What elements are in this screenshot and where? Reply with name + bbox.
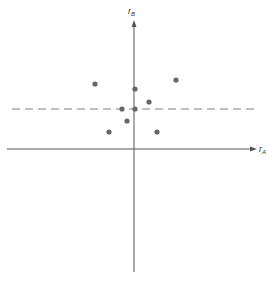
data-point: [173, 77, 178, 82]
y-axis-arrow-icon: [132, 20, 137, 27]
data-point: [106, 129, 111, 134]
diagram-canvas: rB rA: [0, 0, 275, 282]
data-point: [132, 86, 137, 91]
data-points: [92, 77, 178, 134]
y-axis-label: rB: [128, 6, 135, 17]
x-axis-label: rA: [259, 144, 266, 155]
data-point: [146, 99, 151, 104]
scatter-diagram: rB rA: [0, 0, 275, 282]
data-point: [154, 129, 159, 134]
data-point: [92, 81, 97, 86]
axes: [7, 20, 257, 272]
data-point: [132, 106, 137, 111]
x-axis-arrow-icon: [250, 147, 257, 152]
data-point: [119, 106, 124, 111]
data-point: [124, 118, 129, 123]
